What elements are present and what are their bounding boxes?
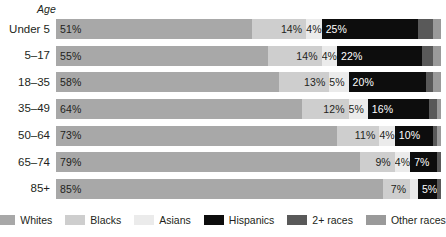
bar-track: 55%14%4%22% [56,46,441,66]
bar-row-label: 65–74 [0,157,56,169]
bar-segment[interactable]: 5% [418,179,437,199]
bar-segment-label: 7% [391,184,410,195]
plot-area: Under 551%14%4%25%5–1755%14%4%22%18–3558… [0,16,441,203]
chart-legend: WhitesBlacksAsiansHispanics2+ racesOther… [0,210,441,230]
bar-segment[interactable] [418,19,433,39]
legend-swatch-icon [287,215,307,225]
bar-row: Under 551%14%4%25% [0,16,441,43]
legend-item[interactable]: Asians [134,215,191,226]
bar-row-label: 85+ [0,183,56,195]
bar-segment[interactable]: 22% [337,46,422,66]
bar-segment-label: 51% [56,24,81,35]
bar-segment[interactable]: 13% [279,72,329,92]
bar-row: 5–1755%14%4%22% [0,43,441,70]
bar-track: 58%13%5%20% [56,72,441,92]
bar-row: 65–7479%9%4%7% [0,149,441,176]
bar-segment[interactable]: 58% [56,72,279,92]
bar-segment-label: 58% [56,77,81,88]
bar-segment-label: 55% [56,51,81,62]
bar-segment[interactable]: 10% [395,126,434,146]
legend-label: Whites [20,215,52,226]
bar-segment-label: 4% [379,130,394,141]
bar-segment-label: 4% [395,157,410,168]
bar-segment-label: 20% [349,77,374,88]
bar-row: 50–6473%11%4%10% [0,122,441,149]
bar-segment-label: 10% [395,130,420,141]
bar-segment[interactable]: 51% [56,19,252,39]
bar-segment-label: 4% [322,51,337,62]
bar-segment[interactable] [437,99,441,119]
bar-segment[interactable]: 85% [56,179,383,199]
bar-segment[interactable]: 7% [410,152,437,172]
bar-segment[interactable]: 79% [56,152,360,172]
bar-row-label: 5–17 [0,50,56,62]
bar-track: 51%14%4%25% [56,19,441,39]
bar-segment[interactable] [437,152,441,172]
legend-swatch-icon [65,215,85,225]
axis-title-age: Age [0,3,56,15]
legend-label: Blacks [90,215,121,226]
bar-row-label: 18–35 [0,77,56,89]
bar-segment[interactable] [433,72,441,92]
bar-segment[interactable] [437,179,441,199]
bar-segment[interactable]: 5% [329,72,348,92]
bar-segment[interactable] [426,72,434,92]
legend-item[interactable]: Whites [0,215,52,226]
bar-segment-label: 22% [337,51,362,62]
bar-segment[interactable]: 64% [56,99,302,119]
bar-segment-label: 14% [296,51,321,62]
bar-segment-label: 5% [349,104,368,115]
bar-segment[interactable]: 14% [252,19,306,39]
legend-label: Other races [391,215,446,226]
legend-swatch-icon [366,215,386,225]
bar-track: 85%7%5% [56,179,441,199]
bar-row-label: 50–64 [0,130,56,142]
bar-segment[interactable]: 5% [349,99,368,119]
bar-segment-label: 73% [56,130,81,141]
bar-segment[interactable]: 16% [368,99,430,119]
bar-segment-label: 85% [56,184,81,195]
bar-segment[interactable] [422,46,434,66]
bar-segment[interactable]: 11% [337,126,379,146]
bar-segment-label: 25% [322,24,347,35]
bar-segment[interactable]: 4% [306,19,321,39]
bar-segment[interactable]: 9% [360,152,395,172]
bar-segment[interactable]: 7% [383,179,410,199]
bar-segment[interactable] [410,179,418,199]
legend-label: Asians [159,215,191,226]
bar-track: 64%12%5%16% [56,99,441,119]
bar-segment-label: 5% [418,184,437,195]
bar-segment-label: 13% [304,77,329,88]
bar-segment[interactable]: 55% [56,46,268,66]
bar-segment[interactable]: 4% [379,126,394,146]
bar-segment-label: 16% [368,104,393,115]
bar-row-label: 35–49 [0,103,56,115]
bar-segment[interactable]: 14% [268,46,322,66]
bar-segment[interactable]: 25% [322,19,418,39]
bar-segment[interactable] [433,46,441,66]
bar-segment[interactable]: 73% [56,126,337,146]
legend-label: 2+ races [312,215,353,226]
legend-item[interactable]: Hispanics [204,215,275,226]
bar-segment-label: 64% [56,104,81,115]
bar-segment[interactable]: 12% [302,99,348,119]
bar-segment[interactable] [437,126,441,146]
bar-segment-label: 4% [306,24,321,35]
legend-swatch-icon [0,215,15,225]
bar-segment[interactable] [433,19,441,39]
bar-row: 18–3558%13%5%20% [0,69,441,96]
legend-item[interactable]: Blacks [65,215,121,226]
bar-segment-label: 9% [375,157,394,168]
bar-row-label: Under 5 [0,24,56,36]
bar-segment[interactable]: 4% [395,152,410,172]
bar-segment[interactable] [429,99,437,119]
legend-item[interactable]: 2+ races [287,215,353,226]
bar-segment[interactable]: 4% [322,46,337,66]
bar-track: 73%11%4%10% [56,126,441,146]
legend-item[interactable]: Other races [366,215,446,226]
bar-segment[interactable]: 20% [349,72,426,92]
bar-segment-label: 7% [410,157,429,168]
bar-row: 85+85%7%5% [0,176,441,203]
bar-segment-label: 11% [355,130,380,141]
